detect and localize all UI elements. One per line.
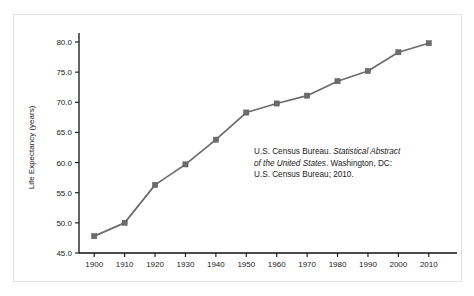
y-tick-label: 75.0 — [56, 68, 72, 77]
x-axis-tick-group: 1900191019201930194019501960197019801990… — [85, 253, 438, 269]
y-tick-label: 45.0 — [56, 249, 72, 258]
data-point-marker — [213, 137, 218, 142]
data-point-marker — [335, 79, 340, 84]
data-point-marker — [244, 110, 249, 115]
y-tick-label: 60.0 — [56, 159, 72, 168]
x-tick-label: 2010 — [420, 260, 438, 269]
x-tick-label: 1950 — [237, 260, 255, 269]
x-tick-label: 1930 — [177, 260, 195, 269]
x-tick-label: 1940 — [207, 260, 225, 269]
chart-figure: 45.050.055.060.065.070.075.080.0 1900191… — [13, 14, 462, 282]
y-axis-title: Life Expectancy (years) — [27, 105, 36, 189]
x-tick-label: 1990 — [359, 260, 377, 269]
data-point-marker — [305, 93, 310, 98]
chart-canvas: 45.050.055.060.065.070.075.080.0 1900191… — [14, 15, 461, 281]
data-point-marker — [365, 68, 370, 73]
y-axis-tick-group: 45.050.055.060.065.070.075.080.0 — [56, 38, 79, 258]
x-tick-label: 1980 — [329, 260, 347, 269]
data-point-marker — [152, 182, 157, 187]
life-expectancy-line — [94, 43, 429, 236]
y-tick-label: 55.0 — [56, 189, 72, 198]
data-point-marker — [426, 41, 431, 46]
citation-line-2: of the United States. Washington, DC: — [254, 159, 392, 168]
y-tick-label: 70.0 — [56, 98, 72, 107]
citation-line-3: U.S. Census Bureau; 2010. — [254, 170, 354, 179]
x-tick-label: 1960 — [268, 260, 286, 269]
x-tick-label: 2000 — [389, 260, 407, 269]
data-point-marker — [396, 50, 401, 55]
data-point-marker — [183, 162, 188, 167]
y-tick-label: 50.0 — [56, 219, 72, 228]
y-tick-label: 65.0 — [56, 128, 72, 137]
x-tick-label: 1910 — [116, 260, 134, 269]
x-tick-label: 1900 — [85, 260, 103, 269]
data-point-marker — [122, 220, 127, 225]
data-point-marker — [92, 234, 97, 239]
citation-line-1: U.S. Census Bureau. Statistical Abstract — [254, 147, 401, 156]
data-point-marker — [274, 101, 279, 106]
data-point-group — [92, 41, 432, 239]
x-tick-label: 1920 — [146, 260, 164, 269]
y-tick-label: 80.0 — [56, 38, 72, 47]
x-tick-label: 1970 — [298, 260, 316, 269]
